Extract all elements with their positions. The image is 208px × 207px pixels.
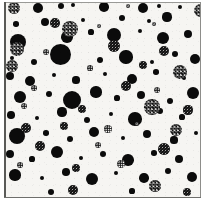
- solid-particle: [6, 72, 14, 80]
- solid-particle: [52, 73, 56, 77]
- solid-particle: [157, 4, 162, 9]
- solid-particle: [172, 51, 178, 57]
- solid-particle: [114, 171, 119, 176]
- solid-particle: [7, 111, 15, 119]
- halftone-particle: [35, 141, 46, 152]
- solid-particle: [89, 127, 99, 137]
- halftone-particle: [6, 60, 19, 73]
- solid-particle: [41, 18, 49, 26]
- solid-particle: [6, 150, 14, 158]
- solid-particle: [103, 72, 107, 76]
- halftone-particle: [21, 103, 27, 109]
- halftone-particle: [144, 99, 160, 115]
- solid-particle: [71, 3, 75, 7]
- solid-particle: [90, 86, 101, 97]
- solid-particle: [150, 60, 154, 64]
- solid-particle: [119, 50, 132, 63]
- solid-particle: [114, 95, 119, 100]
- solid-particle: [46, 91, 52, 97]
- image-plate: [4, 2, 201, 198]
- solid-particle: [178, 5, 182, 9]
- solid-particle: [58, 3, 64, 9]
- halftone-particle: [183, 105, 192, 114]
- solid-particle: [139, 173, 149, 183]
- halftone-particle: [159, 46, 169, 56]
- solid-particle: [43, 130, 49, 136]
- halftone-particle: [87, 65, 92, 70]
- solid-particle: [33, 3, 43, 13]
- solid-particle: [35, 116, 40, 121]
- halftone-particle: [17, 162, 23, 168]
- halftone-particle: [135, 122, 140, 127]
- solid-particle: [81, 18, 85, 22]
- solid-particle: [179, 114, 184, 119]
- solid-particle: [187, 87, 199, 99]
- halftone-particle: [95, 142, 101, 148]
- solid-particle: [88, 29, 93, 34]
- solid-particle: [119, 15, 125, 21]
- halftone-particle: [108, 40, 120, 52]
- solid-particle: [57, 107, 66, 116]
- solid-particle: [99, 2, 109, 12]
- halftone-particle: [104, 125, 111, 132]
- solid-particle: [48, 189, 54, 195]
- solid-particle: [97, 57, 104, 64]
- halftone-particle: [170, 124, 182, 136]
- halftone-particle: [50, 18, 60, 28]
- solid-particle: [138, 29, 143, 34]
- solid-particle: [13, 21, 19, 27]
- solid-particle: [51, 146, 63, 158]
- halftone-particle: [121, 81, 131, 91]
- solid-particle: [100, 151, 107, 158]
- solid-particle: [72, 76, 79, 83]
- halftone-particle: [72, 164, 81, 173]
- halftone-particle: [10, 42, 24, 56]
- solid-particle: [153, 69, 159, 75]
- solid-particle: [184, 30, 193, 39]
- halftone-particle: [68, 185, 78, 195]
- solid-particle: [14, 91, 27, 104]
- halftone-particle: [154, 87, 160, 93]
- solid-particle: [165, 168, 171, 174]
- solid-particle: [62, 168, 70, 176]
- solid-particle: [50, 44, 71, 65]
- solid-particle: [175, 155, 183, 163]
- solid-particle: [194, 131, 199, 136]
- solid-particle: [40, 176, 44, 180]
- halftone-particle: [139, 61, 148, 70]
- frame-top-rule: [4, 2, 201, 3]
- halftone-particle: [31, 85, 37, 91]
- frame-right-rule: [200, 2, 201, 198]
- solid-particle: [187, 172, 197, 182]
- solid-particle: [151, 150, 157, 156]
- solid-particle: [79, 156, 83, 160]
- solid-particle: [138, 3, 149, 14]
- solid-particle: [147, 19, 151, 23]
- solid-particle: [67, 136, 73, 142]
- halftone-particle: [152, 22, 157, 27]
- solid-particle: [31, 59, 37, 65]
- solid-particle: [9, 169, 20, 180]
- particle-field-figure: [0, 0, 208, 207]
- halftone-particle: [21, 123, 31, 133]
- halftone-particle: [60, 122, 68, 130]
- halftone-particle: [62, 21, 78, 37]
- solid-particle: [29, 156, 34, 161]
- halftone-particle: [183, 188, 191, 196]
- solid-particle: [157, 32, 169, 44]
- halftone-particle: [158, 143, 170, 155]
- halftone-particle: [149, 180, 160, 191]
- halftone-particle: [43, 49, 50, 56]
- solid-particle: [162, 12, 171, 21]
- frame-bottom-rule: [4, 197, 201, 198]
- solid-particle: [137, 91, 145, 99]
- solid-particle: [167, 98, 173, 104]
- solid-particle: [109, 112, 113, 116]
- halftone-particle: [117, 160, 125, 168]
- solid-particle: [121, 136, 125, 140]
- frame-left-rule: [4, 2, 6, 198]
- solid-particle: [84, 117, 90, 123]
- halftone-particle: [126, 4, 130, 8]
- solid-particle: [129, 188, 134, 193]
- halftone-particle: [78, 105, 86, 113]
